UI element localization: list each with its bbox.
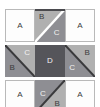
tile-label: A xyxy=(17,22,22,30)
tile-label: B xyxy=(55,100,60,107)
tile-label: B xyxy=(39,13,44,21)
tile-top-center: B C xyxy=(35,9,65,42)
tile-bottom-center: C B xyxy=(35,80,65,107)
tile-middle-right: B C xyxy=(65,45,95,77)
tile-label: A xyxy=(17,91,22,99)
tile-label: C xyxy=(40,90,46,98)
tile-label: C xyxy=(69,64,75,72)
tile-label: C xyxy=(24,49,30,57)
tile-label: D xyxy=(47,57,53,65)
tile-top-left: A xyxy=(5,9,35,42)
tile-label: A xyxy=(77,22,82,30)
tile-label: A xyxy=(77,91,82,99)
tile-bottom-left: A xyxy=(5,80,35,107)
tile-middle-left: C B xyxy=(5,45,35,77)
tile-label: C xyxy=(54,29,60,37)
tile-label: B xyxy=(10,64,15,72)
tile-bottom-right: A xyxy=(65,80,95,107)
tile-grid-diagram: A B C A C B D xyxy=(0,0,100,107)
tile-top-right: A xyxy=(65,9,95,42)
tile-middle-center: D xyxy=(35,45,65,77)
tile-label: B xyxy=(85,49,90,57)
